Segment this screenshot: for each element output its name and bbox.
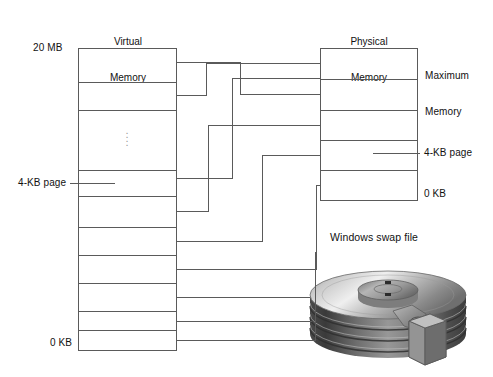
diagram-canvas: Virtual Memory Physical Memory 20 MB 4-K… (0, 0, 493, 377)
connector-vm4-to-pm3 (176, 155, 320, 241)
virtual-memory-bottom-label: 0 KB (50, 337, 72, 349)
virtual-memory-title-line2: Memory (88, 72, 168, 84)
ellipsis-dot: . (118, 140, 136, 144)
physical-memory-max-label: Maximum Memory (425, 46, 469, 142)
physical-memory-title-line1: Physical (329, 36, 409, 48)
connector-vm2-to-pm1b (176, 78, 320, 178)
virtual-memory-top-label: 20 MB (33, 42, 62, 54)
connector-vm1-to-pm0 (176, 63, 320, 95)
physical-memory-max-label-line1: Maximum (425, 70, 469, 82)
connector-vm5-to-pm4 (176, 185, 320, 269)
physical-memory-max-label-line2: Memory (425, 106, 469, 118)
physical-memory-bottom-label: 0 KB (424, 188, 446, 200)
virtual-memory-page-label: 4-KB page (18, 177, 66, 189)
disk-spindle-hub (358, 280, 418, 308)
swap-file-title: Windows swap file (330, 231, 418, 243)
connector-vm8-to-swap (176, 252, 315, 340)
disk-actuator-block (409, 314, 446, 365)
virtual-memory-ellipsis: . . . . (118, 128, 136, 144)
physical-memory-title-line2: Memory (329, 72, 409, 84)
physical-memory-page-label: 4-KB page (424, 147, 472, 159)
physical-memory-title: Physical Memory (329, 12, 409, 108)
swap-file-disk-icon (300, 248, 475, 368)
virtual-memory-title: Virtual Memory (88, 12, 168, 108)
connector-vm0-to-pm1 (176, 62, 320, 94)
connector-vm3-to-pm2 (176, 125, 320, 211)
virtual-memory-title-line1: Virtual (88, 36, 168, 48)
